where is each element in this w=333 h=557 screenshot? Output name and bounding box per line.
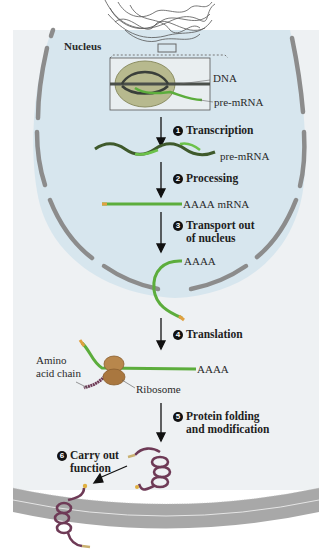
step-6-function: 6Carry out function [57,449,119,475]
step-label-line1: Transport out [186,219,254,231]
nucleus-label: Nucleus [64,41,101,52]
label-line1: Amino [36,354,67,366]
step-number-badge: 2 [173,174,183,184]
step-label-line2: function [57,462,111,474]
step-label-line1: Carry out [70,449,119,461]
step-label-line2: of nucleus [173,232,236,244]
mrna-label: AAAA mRNA [183,199,249,210]
step-label: Translation [186,328,243,340]
step-label: Transcription [186,124,254,136]
step-number-badge: 6 [57,451,67,461]
amino-acid-chain-label: Amino acid chain [36,354,81,380]
step-number-badge: 5 [173,412,183,422]
gene-expression-diagram: Nucleus DNA pre-mRNA 1Transcription pre-… [0,0,333,557]
exported-poly-a-label: AAAA [184,256,216,267]
step-5-folding: 5Protein folding and modification [173,410,269,436]
step-3-transport: 3Transport out of nucleus [173,219,254,245]
dna-label: DNA [213,73,237,84]
pre-mrna-inset-label: pre-mRNA [214,97,264,108]
step-2-processing: 2Processing [173,172,238,185]
step-label: Processing [186,172,238,184]
step-label-line1: Protein folding [186,410,260,422]
step-1-transcription: 1Transcription [173,124,254,137]
step-number-badge: 4 [173,330,183,340]
step-number-badge: 3 [173,221,183,231]
ribosome-label: Ribosome [136,384,181,395]
translation-poly-a-label: AAAA [197,364,229,375]
poly-a-tail-label: AAAA [183,198,215,210]
mrna-text: mRNA [218,198,250,210]
pre-mrna-label: pre-mRNA [220,151,270,162]
step-4-translation: 4Translation [173,328,243,341]
step-label-line2: and modification [173,423,269,435]
diagram-graphics [0,0,333,557]
step-number-badge: 1 [173,126,183,136]
label-line2: acid chain [36,367,81,379]
